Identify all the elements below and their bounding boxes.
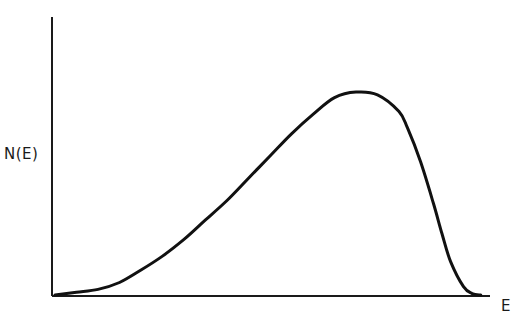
y-axis-label: N(E) (4, 145, 38, 163)
x-axis-label: E (501, 297, 511, 315)
energy-distribution-chart (0, 0, 527, 321)
distribution-curve (55, 92, 481, 295)
